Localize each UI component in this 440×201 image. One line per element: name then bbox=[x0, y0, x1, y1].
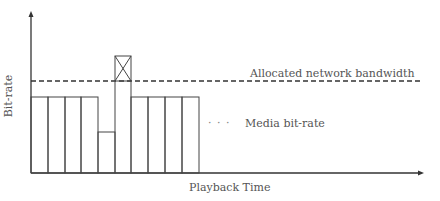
x-axis-label: Playback Time bbox=[189, 181, 270, 194]
x-axis-arrow-icon bbox=[418, 171, 424, 176]
bandwidth-label: Allocated network bandwidth bbox=[250, 67, 414, 80]
segment-8 bbox=[148, 97, 165, 173]
segment-1 bbox=[31, 97, 48, 173]
segment-10 bbox=[182, 97, 199, 173]
media-marker: · · · bbox=[208, 117, 230, 130]
segment-5-low bbox=[98, 132, 115, 173]
y-axis-arrow-icon bbox=[29, 11, 34, 17]
segment-7 bbox=[131, 97, 148, 173]
y-axis-label: Bit-rate bbox=[2, 75, 15, 118]
media-segments bbox=[31, 56, 199, 173]
segment-6-high bbox=[115, 56, 131, 173]
segment-3 bbox=[65, 97, 81, 173]
media-label: Media bit-rate bbox=[245, 117, 325, 130]
segment-9 bbox=[165, 97, 182, 173]
bitrate-diagram bbox=[0, 0, 440, 201]
segment-2 bbox=[48, 97, 65, 173]
segment-4 bbox=[81, 97, 98, 173]
